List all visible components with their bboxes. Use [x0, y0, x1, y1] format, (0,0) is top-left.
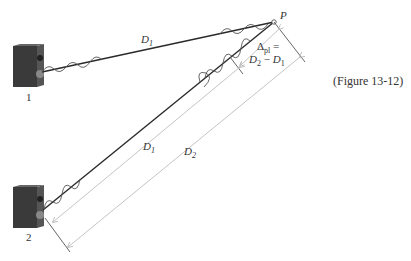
interference-diagram: 1 2 P D1 D1 D2 Δpl = D2 − D1	[0, 0, 411, 261]
speaker-1-icon	[13, 44, 44, 87]
path1-label: D1	[140, 33, 153, 48]
dim-d1-label: D1	[142, 140, 155, 155]
speaker-2-label: 2	[26, 231, 32, 243]
point-p-label: P	[279, 9, 287, 21]
path-difference-label-line2: D2 − D1	[248, 53, 285, 68]
figure-caption: (Figure 13-12)	[333, 74, 403, 89]
ray-d2	[43, 22, 274, 210]
speaker-2-icon	[13, 185, 44, 228]
dim-d2-label: D2	[183, 145, 196, 160]
speaker-1-label: 1	[26, 91, 32, 103]
extension-line-speaker2	[45, 218, 70, 252]
